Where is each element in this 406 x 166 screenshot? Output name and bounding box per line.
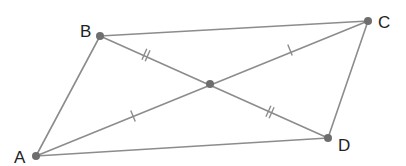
side-bc (100, 21, 368, 36)
side-cd (328, 21, 368, 138)
label-a: A (14, 148, 26, 166)
center-point (206, 80, 214, 88)
parallelogram-diagram: A B C D (0, 0, 406, 166)
label-c: C (378, 13, 390, 32)
diagonal-ac (36, 21, 368, 156)
vertex-labels: A B C D (14, 13, 390, 166)
side-da (36, 138, 328, 156)
vertex-c-point (364, 17, 372, 25)
label-b: B (80, 22, 91, 41)
vertex-b-point (96, 32, 104, 40)
vertex-d-point (324, 134, 332, 142)
label-d: D (338, 136, 350, 155)
side-ab (36, 36, 100, 156)
vertex-a-point (32, 152, 40, 160)
diagonals (36, 21, 368, 156)
